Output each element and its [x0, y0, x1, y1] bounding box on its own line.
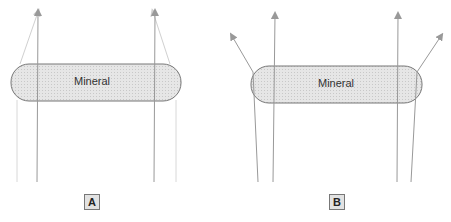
ray-outer-left	[232, 36, 258, 182]
faint-ray-left-upper	[20, 12, 38, 64]
faint-ray-right-upper	[153, 12, 170, 64]
ray-left	[37, 12, 38, 182]
ray-inner-right	[397, 15, 398, 182]
panel-b	[232, 15, 441, 182]
refraction-diagram	[0, 0, 451, 222]
ray-right	[154, 12, 155, 182]
mineral-label-b: Mineral	[318, 77, 354, 89]
ray-outer-right	[411, 36, 441, 182]
panel-label-b: B	[329, 194, 345, 210]
mineral-label-a: Mineral	[74, 75, 110, 87]
panel-a	[11, 12, 181, 182]
panel-label-a: A	[84, 194, 100, 210]
